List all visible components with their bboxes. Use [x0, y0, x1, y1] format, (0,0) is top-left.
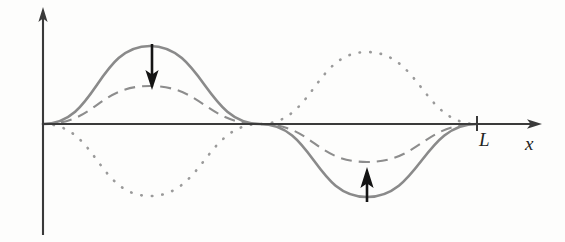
x-axis-label: x — [525, 134, 533, 153]
standing-wave-figure: L x — [0, 0, 565, 242]
x-axis — [43, 119, 542, 128]
y-axis — [38, 7, 47, 235]
x-axis-endpoint-label-L: L — [479, 130, 490, 149]
down-arrow-annotation — [145, 44, 158, 90]
wave-plot-svg — [0, 0, 565, 242]
solid-wave-curve — [43, 46, 477, 197]
